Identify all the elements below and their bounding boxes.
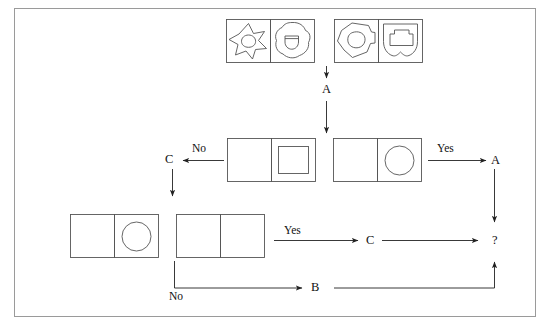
label-no-left: No	[192, 143, 206, 155]
label-question-mark: ?	[492, 234, 498, 247]
diagram-canvas: A No C Yes A Yes C No B ?	[0, 0, 551, 327]
label-a-right: A	[491, 154, 500, 167]
label-yes-right: Yes	[437, 143, 454, 155]
label-no-bottom: No	[169, 291, 183, 303]
label-b-bottom: B	[311, 281, 319, 294]
label-a-top: A	[322, 83, 331, 96]
diagram-vector-layer	[0, 0, 551, 327]
label-c-left: C	[165, 153, 173, 166]
label-c-bottom: C	[366, 234, 374, 247]
label-yes-bottom: Yes	[284, 225, 301, 237]
